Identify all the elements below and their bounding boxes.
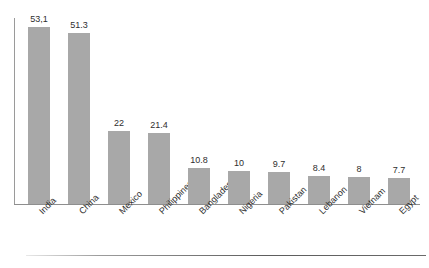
bar-rect[interactable] bbox=[68, 33, 90, 204]
bar-value-label: 7.7 bbox=[393, 165, 406, 175]
bar-group: 8.4 Lebanon bbox=[308, 176, 330, 204]
bar-group: 21.4 Philippines bbox=[148, 133, 170, 204]
bar-rect[interactable] bbox=[28, 27, 50, 204]
bar-value-label: 51.3 bbox=[70, 20, 88, 30]
plot-area: 53,1 India 51.3 China 22 Mexico 21.4 Phi… bbox=[0, 0, 429, 268]
bar-group: 7.7 Egypt bbox=[388, 178, 410, 204]
bar-group: 22 Mexico bbox=[108, 131, 130, 204]
bar-rect[interactable] bbox=[148, 133, 170, 204]
bar-value-label: 10 bbox=[234, 158, 244, 168]
category-axis-line bbox=[14, 204, 420, 205]
bar-value-label: 9.7 bbox=[273, 159, 286, 169]
bar-value-label: 8 bbox=[356, 164, 361, 174]
bar-value-label: 21.4 bbox=[150, 120, 168, 130]
bar-value-label: 8.4 bbox=[313, 163, 326, 173]
bar-value-label: 53,1 bbox=[30, 14, 48, 24]
bar-chart-figure: 53,1 India 51.3 China 22 Mexico 21.4 Phi… bbox=[0, 0, 429, 268]
bar-group: 10 Nigeria bbox=[228, 171, 250, 204]
bar-group: 9.7 Pakistan bbox=[268, 172, 290, 204]
bar-group: 51.3 China bbox=[68, 33, 90, 204]
bar-value-label: 22 bbox=[114, 118, 124, 128]
value-axis-line bbox=[14, 18, 15, 205]
bar-group: 10.8 Bangladesh bbox=[188, 168, 210, 204]
bar-rect[interactable] bbox=[108, 131, 130, 204]
bar-group: 53,1 India bbox=[28, 27, 50, 204]
bar-value-label: 10.8 bbox=[190, 155, 208, 165]
footer-rule bbox=[26, 255, 426, 256]
bar-group: 8 Vietnam bbox=[348, 177, 370, 204]
